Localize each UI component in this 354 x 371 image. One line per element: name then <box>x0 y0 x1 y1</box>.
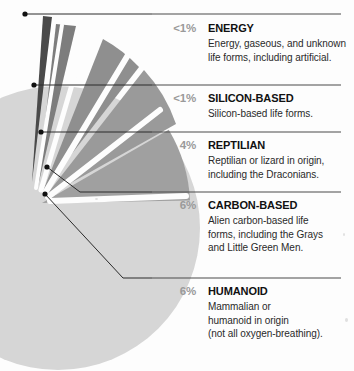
legend-desc-line: life forms, including artificial. <box>208 51 354 65</box>
legend-title-humanoid: HUMANOID <box>208 285 354 298</box>
legend-title-energy: ENERGY <box>208 22 354 35</box>
legend-desc-line: forms, including the Grays <box>208 228 354 242</box>
legend-desc-line: Mammalian or <box>208 300 354 314</box>
legend-body-reptilian: REPTILIAN Reptilian or lizard in origin,… <box>208 139 354 181</box>
scan-speck <box>95 198 98 200</box>
legend-title-carbon-based: CARBON-BASED <box>208 199 354 212</box>
legend-desc-silicon-based: Silicon-based life forms. <box>208 107 354 121</box>
legend-desc-line: Silicon-based life forms. <box>208 107 354 121</box>
legend-desc-carbon-based: Alien carbon-based life forms, including… <box>208 214 354 255</box>
scan-speck <box>343 233 345 236</box>
legend-desc-line: including the Draconians. <box>208 168 354 182</box>
legend: <1% ENERGY Energy, gaseous, and unknown … <box>0 0 354 371</box>
legend-desc-line: and Little Green Men. <box>208 241 354 255</box>
legend-body-humanoid: HUMANOID Mammalian or humanoid in origin… <box>208 285 354 341</box>
legend-desc-line: humanoid in origin <box>208 314 354 328</box>
legend-title-reptilian: REPTILIAN <box>208 139 354 152</box>
legend-title-silicon-based: SILICON-BASED <box>208 92 354 105</box>
legend-desc-line: Reptilian or lizard in origin, <box>208 154 354 168</box>
legend-percent-energy: <1% <box>152 22 196 34</box>
legend-body-energy: ENERGY Energy, gaseous, and unknown life… <box>208 22 354 64</box>
legend-desc-reptilian: Reptilian or lizard in origin, including… <box>208 154 354 181</box>
legend-desc-line: Energy, gaseous, and unknown <box>208 37 354 51</box>
alien-life-form-pie-infographic: <1% ENERGY Energy, gaseous, and unknown … <box>0 0 354 371</box>
legend-desc-line: Alien carbon-based life <box>208 214 354 228</box>
legend-percent-humanoid: 6% <box>152 285 196 297</box>
legend-desc-energy: Energy, gaseous, and unknown life forms,… <box>208 37 354 64</box>
legend-percent-silicon-based: <1% <box>152 92 196 104</box>
legend-body-silicon-based: SILICON-BASED Silicon-based life forms. <box>208 92 354 121</box>
legend-percent-reptilian: 4% <box>152 139 196 151</box>
legend-desc-humanoid: Mammalian or humanoid in origin (not all… <box>208 300 354 341</box>
legend-body-carbon-based: CARBON-BASED Alien carbon-based life for… <box>208 199 354 255</box>
scan-speck <box>345 318 348 322</box>
legend-percent-carbon-based: 6% <box>152 199 196 211</box>
legend-desc-line: (not all oxygen-breathing). <box>208 327 354 341</box>
